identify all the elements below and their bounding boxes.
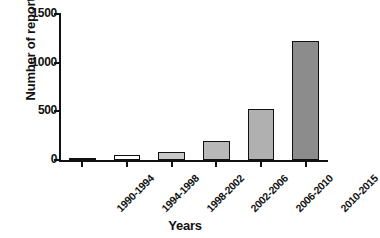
bar bbox=[158, 152, 185, 160]
x-tick-mark bbox=[81, 161, 83, 167]
x-tick-label: 2006-2010 bbox=[293, 172, 335, 214]
x-tick-mark bbox=[171, 161, 173, 167]
y-axis-line bbox=[59, 13, 61, 161]
x-axis-line bbox=[59, 160, 328, 162]
y-tick-label: 1000 bbox=[32, 55, 58, 69]
y-tick-label: 500 bbox=[38, 103, 57, 117]
x-tick-label: 2002-2006 bbox=[248, 172, 290, 214]
y-tick-label: 1500 bbox=[32, 6, 58, 20]
bar bbox=[69, 158, 96, 161]
plot-area: 050010001500 1990-19941994-19981998-2002… bbox=[60, 14, 328, 160]
y-tick-label: 0 bbox=[51, 152, 57, 166]
x-tick-label: 2010-2015 bbox=[338, 172, 380, 214]
x-axis-title: Years bbox=[60, 218, 310, 233]
bar bbox=[292, 41, 319, 160]
x-tick-label: 1994-1998 bbox=[159, 172, 201, 214]
x-tick-mark bbox=[126, 161, 128, 167]
bar bbox=[248, 109, 275, 160]
x-tick-mark bbox=[260, 161, 262, 167]
x-tick-mark bbox=[305, 161, 307, 167]
x-tick-label: 1990-1994 bbox=[114, 172, 156, 214]
bar bbox=[114, 155, 141, 160]
x-tick-label: 1998-2002 bbox=[204, 172, 246, 214]
x-tick-mark bbox=[215, 161, 217, 167]
bar bbox=[203, 141, 230, 160]
